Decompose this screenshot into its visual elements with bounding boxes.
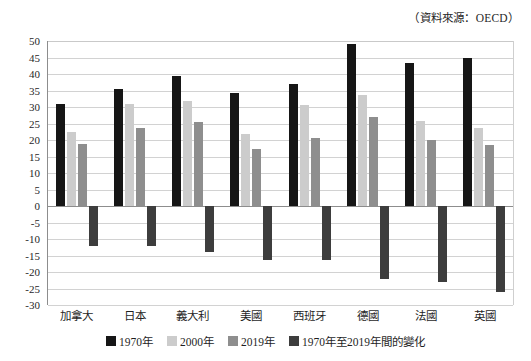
bar [427,140,436,206]
bar [438,206,447,282]
legend-label: 2019年 [241,333,275,349]
bars [397,41,455,305]
bar [230,93,239,206]
x-tick-label: 義大利 [164,307,222,323]
bar [205,206,214,252]
bar [172,76,181,206]
legend-label: 1970年至2019年間的變化 [302,333,425,349]
legend-item[interactable]: 2019年 [228,333,275,349]
bar [463,58,472,206]
legend-swatch-icon [228,336,238,346]
legend-label: 2000年 [180,333,214,349]
bar [369,117,378,206]
bar [241,134,250,206]
bar [263,206,272,260]
plot-area [47,41,514,305]
bars [281,41,339,305]
legend-item[interactable]: 2000年 [167,333,214,349]
bar [289,84,298,206]
y-tick-label: -15 [25,250,40,261]
bar-group [281,41,339,305]
bar [67,132,76,206]
bar [300,105,309,206]
bar [311,138,320,206]
bar [322,206,331,260]
y-axis-labels: 50454035302520151050-5-10-15-20-25-30 [0,41,45,305]
bar-groups [48,41,513,305]
gridline--30 [48,305,513,306]
x-tick-label: 德國 [339,307,397,323]
bar [496,206,505,292]
y-tick-label: -30 [25,300,40,311]
y-tick-label: -25 [25,283,40,294]
y-tick-label: 10 [29,168,40,179]
legend-swatch-icon [167,336,177,346]
bar [78,144,87,206]
bar [89,206,98,246]
legend-item[interactable]: 1970年至2019年間的變化 [289,333,425,349]
bar [485,145,494,206]
bars [339,41,397,305]
legend-label: 1970年 [119,333,153,349]
bar [56,104,65,206]
y-tick-label: 30 [29,102,40,113]
x-tick-label: 加拿大 [47,307,105,323]
bar [380,206,389,279]
bars [455,41,513,305]
y-tick-label: -5 [31,217,40,228]
y-tick-label: 25 [29,118,40,129]
bar [114,89,123,206]
bar-group [164,41,222,305]
bars [48,41,106,305]
x-tick-label: 西班牙 [281,307,339,323]
bar-group [48,41,106,305]
y-tick-label: 15 [29,151,40,162]
bar-group [222,41,280,305]
bar [416,121,425,206]
bar [136,128,145,206]
bars [106,41,164,305]
y-tick-label: 5 [35,184,41,195]
legend-swatch-icon [289,336,299,346]
y-tick-label: -10 [25,234,40,245]
bar-group [397,41,455,305]
x-tick-label: 法國 [397,307,455,323]
x-axis-labels: 加拿大日本義大利美國西班牙德國法國英國 [47,307,514,323]
bar [147,206,156,246]
x-tick-label: 美國 [222,307,280,323]
bars [222,41,280,305]
y-tick-label: 50 [29,36,40,47]
y-tick-label: 45 [29,52,40,63]
y-tick-label: 20 [29,135,40,146]
bar [358,95,367,206]
bars [164,41,222,305]
y-tick-label: -20 [25,267,40,278]
bar [125,104,134,206]
bar [194,122,203,206]
y-tick-label: 0 [35,201,41,212]
bar [252,149,261,206]
source-note: （資料來源：OECD） [408,9,519,25]
chart-legend: 1970年2000年2019年1970年至2019年間的變化 [0,333,531,349]
bar-group [106,41,164,305]
bar [183,101,192,206]
bar [405,63,414,206]
bar-group [455,41,513,305]
bar-group [339,41,397,305]
x-tick-label: 英國 [456,307,514,323]
x-tick-label: 日本 [105,307,163,323]
chart-root: （資料來源：OECD） 50454035302520151050-5-10-15… [0,0,531,361]
bar [347,44,356,206]
legend-swatch-icon [106,336,116,346]
legend-item[interactable]: 1970年 [106,333,153,349]
y-tick-label: 40 [29,69,40,80]
y-tick-label: 35 [29,85,40,96]
bar [474,128,483,206]
